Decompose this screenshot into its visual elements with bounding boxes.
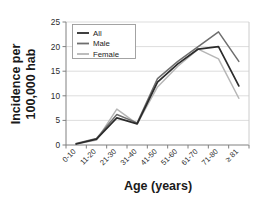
y-tick-label: 10 (51, 91, 61, 101)
y-tick-label: 25 (51, 17, 61, 27)
y-axis-title-line-1: Incidence per (9, 44, 23, 125)
y-tick-label: 0 (55, 140, 60, 150)
chart-legend: AllMaleFemale (73, 25, 136, 59)
y-axis-title: Incidence per 100,000 hab (9, 44, 38, 125)
y-tick-label: 5 (55, 115, 60, 125)
chart-figure: 0510152025 0-1011-2021-3031-4041-5051-60… (0, 0, 264, 197)
legend-label-male: Male (93, 39, 110, 48)
legend-label-all: All (93, 29, 102, 38)
line-chart: 0510152025 0-1011-2021-3031-4041-5051-60… (0, 0, 264, 197)
x-axis-title: Age (years) (124, 179, 192, 193)
y-tick-label: 20 (51, 42, 61, 52)
y-tick-label: 15 (51, 66, 61, 76)
y-axis-title-line-2: 100,000 hab (24, 48, 38, 119)
legend-label-female: Female (93, 50, 119, 59)
